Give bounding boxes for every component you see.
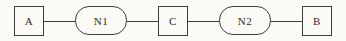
node-N1: N1 [75, 6, 127, 35]
node-A: A [14, 6, 44, 36]
edge-A-N1 [44, 21, 75, 22]
node-C-label: C [169, 15, 177, 27]
node-C: C [158, 6, 188, 36]
node-B: B [302, 6, 332, 36]
node-link-diagram: A N1 C N2 B [0, 0, 346, 41]
edge-N2-B [271, 21, 302, 22]
node-N2: N2 [219, 6, 271, 35]
node-A-label: A [25, 15, 33, 27]
edge-N1-C [127, 21, 158, 22]
edge-C-N2 [188, 21, 219, 22]
node-N2-label: N2 [238, 15, 252, 27]
node-B-label: B [313, 15, 321, 27]
node-N1-label: N1 [94, 15, 108, 27]
